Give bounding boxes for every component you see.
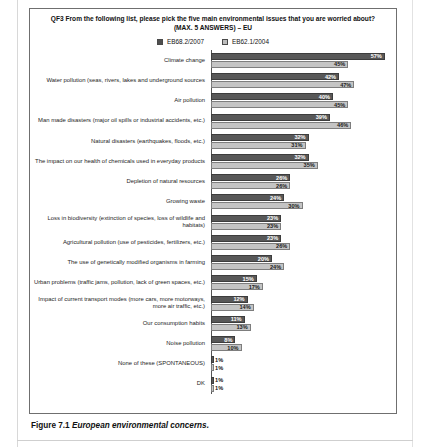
legend-item-2004: EB62.1/2004 bbox=[222, 38, 269, 45]
chart-row: Air pollution40%45% bbox=[30, 91, 396, 111]
category-label: Man made disasters (major oil spills or … bbox=[30, 117, 208, 124]
bar-value-label: 26% bbox=[276, 175, 289, 181]
bar-EB62-1-2004: 47% bbox=[211, 81, 354, 88]
chart-row: Urban problems (traffic jams, pollution,… bbox=[30, 273, 396, 293]
chart-row: Impact of current transport modes (more … bbox=[30, 293, 396, 313]
bar-EB68-2-2007: 39% bbox=[211, 114, 330, 121]
bar-group: 20%24% bbox=[208, 254, 396, 271]
bar-EB62-1-2004: 46% bbox=[211, 122, 351, 129]
chart-row: Our consumption habits11%13% bbox=[30, 313, 396, 333]
bar-value-label: 1% bbox=[215, 365, 223, 371]
chart-row: Growing waste24%30% bbox=[30, 192, 396, 212]
bar-group: 40%45% bbox=[208, 92, 396, 109]
bar-EB68-2-2007: 24% bbox=[211, 194, 284, 201]
chart-row: Noise pollution8%10% bbox=[30, 333, 396, 353]
bar-group: 26%26% bbox=[208, 173, 396, 190]
bar-EB68-2-2007: 40% bbox=[211, 93, 333, 100]
bar-EB62-1-2004: 23% bbox=[211, 223, 281, 230]
bar-value-label: 23% bbox=[267, 223, 280, 229]
category-label: Impact of current transport modes (more … bbox=[30, 296, 208, 310]
bar-group: 12%14% bbox=[208, 295, 396, 312]
category-label: Loss in biodiversity (extinction of spec… bbox=[30, 215, 208, 229]
chart-container: QF3 From the following list, please pick… bbox=[29, 8, 397, 414]
bar-EB62-1-2004: 45% bbox=[211, 101, 348, 108]
bar-value-label: 46% bbox=[337, 122, 350, 128]
bar-group: 32%35% bbox=[208, 153, 396, 170]
bar-EB62-1-2004: 10% bbox=[211, 344, 242, 351]
bar-value-label: 15% bbox=[243, 276, 256, 282]
bar-value-label: 26% bbox=[276, 183, 289, 189]
bar-group: 8%10% bbox=[208, 335, 396, 352]
page-edge-bottom bbox=[17, 440, 413, 441]
bar-value-label: 11% bbox=[231, 316, 244, 322]
bar-value-label: 32% bbox=[294, 134, 307, 140]
bar-group: 42%47% bbox=[208, 72, 396, 89]
legend-swatch-icon-2004 bbox=[222, 39, 228, 45]
bar-value-label: 42% bbox=[325, 74, 338, 80]
bar-EB68-2-2007: 23% bbox=[211, 235, 281, 242]
category-label: Growing waste bbox=[30, 198, 208, 205]
bar-EB68-2-2007: 32% bbox=[211, 134, 309, 141]
bar-EB68-2-2007: 20% bbox=[211, 255, 272, 262]
bar-value-label: 24% bbox=[270, 264, 283, 270]
bar-EB62-1-2004: 1% bbox=[211, 364, 214, 371]
bar-value-label: 57% bbox=[371, 53, 384, 59]
bar-EB62-1-2004: 17% bbox=[211, 283, 263, 290]
bar-group: 1%1% bbox=[208, 376, 396, 393]
category-label: Depletion of natural resources bbox=[30, 178, 208, 185]
bar-EB62-1-2004: 13% bbox=[211, 324, 251, 331]
page-edge-left bbox=[17, 0, 18, 447]
chart-row: Water pollution (seas, rivers, lakes and… bbox=[30, 70, 396, 90]
bar-value-label: 26% bbox=[276, 243, 289, 249]
bar-EB68-2-2007: 8% bbox=[211, 336, 235, 343]
bar-group: 57%45% bbox=[208, 52, 396, 69]
chart-row: DK1%1% bbox=[30, 374, 396, 394]
chart-row: The impact on our health of chemicals us… bbox=[30, 151, 396, 171]
bar-value-label: 39% bbox=[316, 114, 329, 120]
figure-caption-text: European environmental concerns. bbox=[72, 421, 209, 430]
bar-value-label: 45% bbox=[334, 102, 347, 108]
category-label: The impact on our health of chemicals us… bbox=[30, 158, 208, 165]
bar-group: 23%26% bbox=[208, 234, 396, 251]
bar-value-label: 35% bbox=[304, 162, 317, 168]
chart-row: Climate change57%45% bbox=[30, 50, 396, 70]
bar-value-label: 24% bbox=[270, 195, 283, 201]
scanned-page: QF3 From the following list, please pick… bbox=[0, 0, 423, 447]
bar-value-label: 31% bbox=[291, 142, 304, 148]
bar-EB68-2-2007: 11% bbox=[211, 316, 245, 323]
bar-EB68-2-2007: 42% bbox=[211, 73, 339, 80]
bar-EB62-1-2004: 35% bbox=[211, 162, 318, 169]
chart-legend: EB68.2/2007 EB62.1/2004 bbox=[30, 38, 396, 45]
bar-EB62-1-2004: 26% bbox=[211, 243, 290, 250]
bar-group: 39%46% bbox=[208, 113, 396, 130]
bar-EB62-1-2004: 30% bbox=[211, 202, 303, 209]
bar-value-label: 12% bbox=[233, 296, 246, 302]
category-label: Water pollution (seas, rivers, lakes and… bbox=[30, 77, 208, 84]
bar-group: 24%30% bbox=[208, 193, 396, 210]
bar-EB68-2-2007: 15% bbox=[211, 275, 257, 282]
bar-value-label: 23% bbox=[267, 235, 280, 241]
bar-EB62-1-2004: 24% bbox=[211, 263, 284, 270]
bar-value-label: 32% bbox=[294, 154, 307, 160]
bar-EB62-1-2004: 1% bbox=[211, 385, 214, 392]
bar-EB68-2-2007: 1% bbox=[211, 356, 214, 363]
bar-EB68-2-2007: 1% bbox=[211, 377, 214, 384]
bar-value-label: 1% bbox=[215, 385, 223, 391]
chart-row: The use of genetically modified organism… bbox=[30, 253, 396, 273]
category-label: Urban problems (traffic jams, pollution,… bbox=[30, 279, 208, 286]
bar-EB62-1-2004: 45% bbox=[211, 61, 348, 68]
bar-value-label: 40% bbox=[319, 94, 332, 100]
bar-group: 11%13% bbox=[208, 315, 396, 332]
bar-value-label: 45% bbox=[334, 61, 347, 67]
category-label: Climate change bbox=[30, 57, 208, 64]
bar-value-label: 14% bbox=[239, 304, 252, 310]
category-label: None of these (SPONTANEOUS) bbox=[30, 360, 208, 367]
bar-value-label: 1% bbox=[215, 357, 223, 363]
bar-value-label: 13% bbox=[236, 324, 249, 330]
category-label: Agricultural pollution (use of pesticide… bbox=[30, 239, 208, 246]
bar-EB68-2-2007: 57% bbox=[211, 53, 385, 60]
chart-title: QF3 From the following list, please pick… bbox=[44, 15, 382, 32]
category-label: DK bbox=[30, 380, 208, 387]
bar-group: 15%17% bbox=[208, 274, 396, 291]
bar-group: 23%23% bbox=[208, 214, 396, 231]
